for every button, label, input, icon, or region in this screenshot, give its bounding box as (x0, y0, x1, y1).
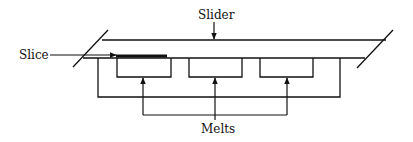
melt-box-3 (260, 58, 313, 77)
melts-label: Melts (201, 123, 235, 135)
slice-label: Slice (19, 49, 49, 61)
slider-body (73, 30, 393, 68)
slider-right-slash (357, 30, 393, 68)
melts-pointers (143, 78, 287, 120)
slice-strip (116, 55, 167, 58)
melt-boxes (117, 58, 313, 77)
melt-box-2 (189, 58, 242, 77)
slider-melts-diagram: Slider Slice Melts (0, 0, 413, 142)
slider-label: Slider (198, 9, 234, 21)
melt-box-1 (117, 58, 171, 77)
slider-left-slash (73, 30, 108, 67)
